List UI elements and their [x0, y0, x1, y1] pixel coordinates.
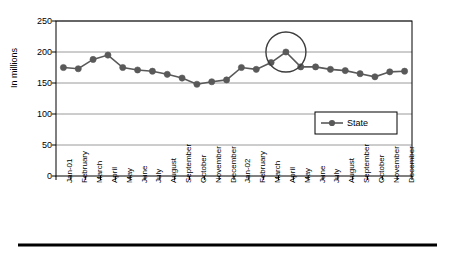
x-tick-label-18: July — [333, 169, 341, 183]
x-tick-label-14: March — [274, 161, 282, 183]
x-tick-label-7: August — [170, 158, 178, 183]
x-tick-label-12: Jan-02 — [244, 159, 252, 183]
x-tick-label-17: June — [319, 166, 327, 183]
x-tick-label-2: March — [96, 161, 104, 183]
x-tick-label-13: February — [259, 151, 267, 183]
x-tick-label-3: April — [111, 167, 119, 183]
x-tick-label-4: May — [126, 168, 134, 183]
x-tick-label-15: April — [289, 167, 297, 183]
chart-figure: In millions 250 200 150 100 50 0 Jan-01F… — [0, 0, 455, 262]
x-tick-label-0: Jan-01 — [66, 159, 74, 183]
x-tick-label-10: November — [215, 146, 223, 183]
x-tick-label-20: September — [363, 144, 371, 183]
x-tick-label-19: August — [348, 158, 356, 183]
x-axis-tick-labels: Jan-01FebruaryMarchAprilMayJuneJulyAugus… — [0, 0, 455, 262]
x-tick-label-21: October — [378, 155, 386, 183]
x-tick-label-5: June — [141, 166, 149, 183]
x-tick-label-22: November — [393, 146, 401, 183]
x-tick-label-11: December — [230, 146, 238, 183]
x-tick-label-1: February — [81, 151, 89, 183]
x-tick-label-9: October — [200, 155, 208, 183]
x-tick-label-16: May — [304, 168, 312, 183]
legend-label-state: State — [347, 119, 368, 128]
x-tick-label-23: December — [408, 146, 416, 183]
x-tick-label-8: September — [185, 144, 193, 183]
x-tick-label-6: July — [155, 169, 163, 183]
